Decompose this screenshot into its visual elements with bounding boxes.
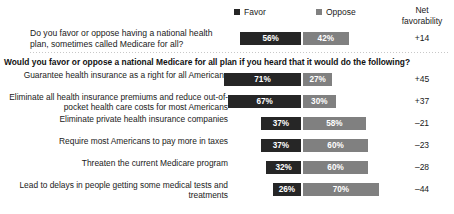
row-bar-area: 37%58%: [228, 113, 392, 135]
oppose-swatch-icon: [316, 9, 322, 15]
bar-segment-oppose: 70%: [303, 183, 379, 196]
bar-segment-favor: 37%: [261, 117, 301, 130]
section-header: Would you favor or oppose a national Med…: [4, 57, 450, 67]
chart-rows: Guarantee health insurance as a right fo…: [0, 69, 454, 201]
legend-label-favor: Favor: [244, 8, 266, 17]
top-question-label: Do you favor or oppose having a national…: [30, 28, 228, 50]
chart-row: Lead to delays in people getting some me…: [0, 179, 454, 201]
bar-segment-favor: 71%: [224, 73, 301, 86]
row-net-value: –28: [392, 162, 452, 172]
bar-segment-favor: 56%: [240, 32, 301, 45]
row-label: Lead to delays in people getting some me…: [4, 180, 228, 200]
row-label: Require most Americans to pay more in ta…: [4, 136, 228, 146]
row-net-value: –23: [392, 140, 452, 150]
row-net-value: +45: [392, 74, 452, 84]
legend-item-favor: Favor: [234, 8, 266, 17]
net-header-line-2: favorability: [392, 16, 452, 27]
row-label: Guarantee health insurance as a right fo…: [4, 70, 228, 80]
row-label: Eliminate private health insurance compa…: [4, 114, 228, 124]
bar-segment-favor: 32%: [266, 161, 301, 174]
legend-item-oppose: Oppose: [316, 8, 356, 17]
row-bar-area: 37%60%: [228, 135, 392, 157]
row-label: Eliminate all health insurance premiums …: [4, 92, 228, 112]
bar-segment-oppose: 60%: [303, 139, 368, 152]
bar-segment-favor: 26%: [273, 183, 301, 196]
bar-segment-favor: 37%: [261, 139, 301, 152]
bar-segment-favor: 67%: [228, 95, 301, 108]
chart-row: Require most Americans to pay more in ta…: [0, 135, 454, 157]
top-question-bar-area: 56%42%: [228, 28, 392, 50]
net-header-line-1: Net: [392, 5, 452, 16]
row-net-value: –44: [392, 184, 452, 194]
chart-row: Eliminate all health insurance premiums …: [0, 91, 454, 113]
bar-segment-oppose: 60%: [303, 161, 368, 174]
bar-segment-oppose: 27%: [303, 73, 332, 86]
bar-segment-oppose: 30%: [303, 95, 336, 108]
diverging-bar-chart: Favor Oppose Net favorability Do you fav…: [0, 0, 454, 214]
bar-segment-oppose: 42%: [303, 32, 349, 45]
chart-legend: Favor Oppose: [228, 8, 392, 22]
chart-row: Threaten the current Medicare program32%…: [0, 157, 454, 179]
row-bar-area: 67%30%: [228, 91, 392, 113]
top-question-row: Do you favor or oppose having a national…: [0, 28, 454, 50]
chart-row: Eliminate private health insurance compa…: [0, 113, 454, 135]
row-bar-area: 26%70%: [228, 179, 392, 201]
row-label: Threaten the current Medicare program: [4, 158, 228, 168]
legend-label-oppose: Oppose: [326, 8, 356, 17]
net-favorability-header: Net favorability: [392, 5, 452, 26]
bar-segment-oppose: 58%: [303, 117, 366, 130]
favor-swatch-icon: [234, 9, 240, 15]
chart-row: Guarantee health insurance as a right fo…: [0, 69, 454, 91]
row-bar-area: 32%60%: [228, 157, 392, 179]
section-divider: [30, 52, 450, 53]
top-question-net-value: +14: [392, 33, 452, 44]
row-bar-area: 71%27%: [228, 69, 392, 91]
row-net-value: +37: [392, 96, 452, 106]
row-net-value: –21: [392, 118, 452, 128]
